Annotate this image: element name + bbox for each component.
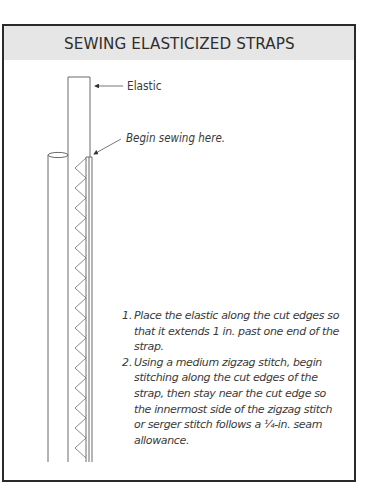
step-number: 2. xyxy=(122,355,133,371)
strap-cut-edge xyxy=(86,157,92,462)
instruction-step: 2. Using a medium zigzag stitch, begin s… xyxy=(122,355,342,449)
strap-drawing xyxy=(48,152,68,462)
step-text: Using a medium zigzag stitch, begin stit… xyxy=(134,355,342,449)
begin-sewing-leader-line xyxy=(94,139,121,154)
elastic-drawing xyxy=(68,77,90,157)
zigzag-stitch xyxy=(75,158,86,458)
instruction-list: 1. Place the elastic along the cut edges… xyxy=(122,308,342,448)
elastic-label: Elastic xyxy=(127,79,162,93)
instruction-step: 1. Place the elastic along the cut edges… xyxy=(122,308,342,355)
step-text: Place the elastic along the cut edges so… xyxy=(134,308,342,355)
step-number: 1. xyxy=(122,308,133,324)
begin-sewing-label: Begin sewing here. xyxy=(126,131,225,145)
